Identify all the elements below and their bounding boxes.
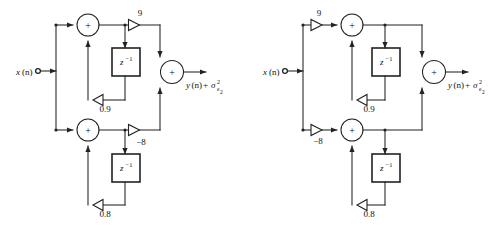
right-input-terminal-icon <box>283 69 288 74</box>
right-diagram: x (n) + + + z −1 z −1 9 −8 0.9 0.8 y (n)… <box>0 0 498 230</box>
right-lower-forward-gain-icon <box>311 125 322 136</box>
right-output-sigma-exponent: 2 <box>479 79 482 85</box>
right-output-sigma-subscript2: 2 <box>482 89 485 95</box>
right-output-label-n: (n) <box>454 80 465 90</box>
right-output-adder-symbol: + <box>431 67 437 78</box>
right-output-sigma: σ <box>473 80 478 90</box>
right-upper-forward-gain-icon <box>311 20 322 31</box>
right-junction-dots <box>301 23 386 131</box>
right-upper-adder-symbol: + <box>349 20 355 31</box>
right-lower-delay-block <box>372 154 400 182</box>
right-output-plus: + <box>465 80 470 90</box>
right-upper-forward-gain-label: 9 <box>317 8 322 18</box>
right-lower-delay-exponent: −1 <box>386 161 393 168</box>
right-input-label-x: x <box>262 67 267 77</box>
right-lower-adder-symbol: + <box>349 125 355 136</box>
right-lower-delay-label: z <box>379 163 384 173</box>
right-upper-delay-exponent: −1 <box>386 55 393 62</box>
right-upper-delay-block <box>372 48 400 76</box>
right-output-label-y: y <box>447 80 452 90</box>
right-lower-feedback-gain-label: 0.8 <box>363 209 375 219</box>
figure-canvas: x (n) + + + z −1 z −1 9 −8 0.9 0.8 y (n)… <box>0 0 498 230</box>
right-input-label-n: (n) <box>269 67 280 77</box>
right-upper-delay-label: z <box>379 57 384 67</box>
right-lower-forward-gain-label: −8 <box>313 136 323 146</box>
right-upper-feedback-gain-label: 0.9 <box>363 104 375 114</box>
